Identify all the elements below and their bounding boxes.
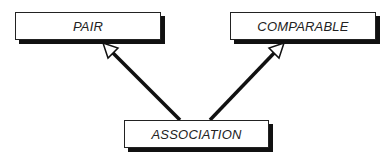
class-node-pair[interactable]: PAIR [15,12,161,40]
node-label: COMPARABLE [257,19,348,34]
node-label: PAIR [73,19,103,34]
node-label: ASSOCIATION [151,127,241,142]
edge-association-to-pair [103,43,180,120]
class-node-association[interactable]: ASSOCIATION [124,120,269,148]
class-node-comparable[interactable]: COMPARABLE [230,12,376,40]
edge-association-to-comparable [210,43,284,120]
